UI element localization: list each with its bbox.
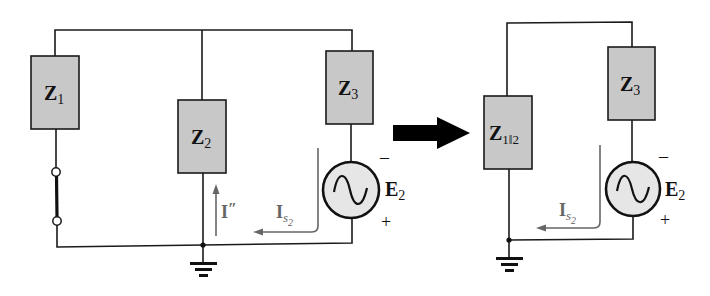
ground-icon <box>496 257 523 272</box>
short-circuit-line <box>57 176 58 217</box>
e2-label: E2 <box>385 178 405 203</box>
right-circuit: Z1‖2 Z3 – E2 + Is2 <box>484 22 685 272</box>
junction-node-right <box>506 237 511 242</box>
left-circuit: Z1 Z2 I″ Z3 <box>31 30 405 277</box>
top-wire <box>55 30 352 56</box>
ground-icon <box>190 262 217 277</box>
ac-voltage-source-right <box>606 162 660 216</box>
arrowhead-up-icon <box>213 184 220 194</box>
source-minus-sign: – <box>379 147 390 167</box>
short-bottom-wire <box>57 225 203 247</box>
source-plus-sign-right: + <box>660 210 670 230</box>
e2-right-label: E2 <box>665 178 685 203</box>
arrowhead-left-icon <box>536 225 546 232</box>
source-plus-sign: + <box>381 212 391 232</box>
i-double-prime-label: I″ <box>221 200 237 222</box>
arrowhead-left-icon <box>253 229 263 236</box>
is2-right-label: Is2 <box>559 200 576 226</box>
is2-label: Is2 <box>276 202 293 228</box>
circuit-diagram: Z1 Z2 I″ Z3 <box>0 0 710 296</box>
short-terminal-top <box>52 168 60 176</box>
source-minus-sign-right: – <box>658 146 669 166</box>
junction-node <box>200 242 205 247</box>
transform-arrow-icon <box>393 117 470 149</box>
short-terminal-bottom <box>53 217 61 225</box>
ac-voltage-source <box>323 162 379 218</box>
